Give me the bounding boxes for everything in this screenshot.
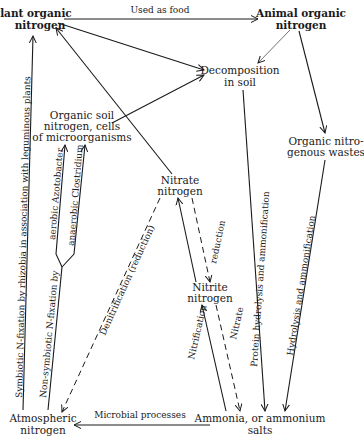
svg-text:Nitrification: Nitrification (186, 304, 208, 361)
edge-nitrate-reduction: reduction (192, 198, 227, 282)
svg-text:nitrogen: nitrogen (187, 292, 233, 304)
svg-text:Hydrolysis and ammonification: Hydrolysis and ammonification (285, 215, 317, 357)
node-plant-organic-nitrogen: Plant organic nitrogen (0, 7, 72, 31)
edge-used-as-food: Used as food (64, 5, 258, 19)
node-organic-nitrogenous-wastes: Organic nitro- genous wastes (287, 135, 364, 158)
svg-text:Protein hydrolysis and ammonif: Protein hydrolysis and ammonification (249, 191, 271, 367)
svg-text:salts: salts (248, 424, 273, 436)
node-nitrate-nitrogen: Nitrate nitrogen (157, 174, 203, 197)
node-ammonia-salts: Ammonia, or ammonium salts (194, 412, 326, 436)
svg-text:Atmospheric: Atmospheric (8, 412, 76, 424)
svg-text:nitrogen: nitrogen (276, 19, 327, 31)
svg-text:Ammonia, or ammonium: Ammonia, or ammonium (194, 412, 326, 424)
svg-text:Used as food: Used as food (131, 5, 190, 15)
edge-animal-to-decomposition (258, 30, 290, 63)
edge-hydrolysis: Hydrolysis and ammonification (285, 160, 325, 411)
svg-text:reduction: reduction (208, 219, 227, 264)
svg-text:nitrogen: nitrogen (15, 19, 66, 31)
node-animal-organic-nitrogen: Animal organic nitrogen (255, 7, 346, 31)
svg-text:Nitrate: Nitrate (228, 306, 245, 340)
svg-text:nitrogen: nitrogen (157, 185, 203, 197)
svg-text:anaerobic Clostridium: anaerobic Clostridium (66, 144, 85, 247)
svg-text:nitrogen: nitrogen (20, 424, 66, 436)
node-organic-soil-nitrogen: Organic soil nitrogen, cells of microorg… (32, 109, 131, 143)
svg-text:aerobic Azotobacter: aerobic Azotobacter (47, 147, 65, 240)
svg-text:in soil: in soil (224, 76, 257, 88)
svg-text:genous wastes: genous wastes (287, 146, 364, 158)
edge-nitrite-reduction: Nitrate (216, 305, 245, 411)
nitrogen-cycle-diagram: Plant organic nitrogen Animal organic ni… (0, 0, 364, 443)
svg-text:Denitrification (reduction): Denitrification (reduction) (98, 224, 157, 337)
node-decomposition-in-soil: Decomposition in soil (200, 64, 279, 88)
svg-text:Animal organic: Animal organic (255, 7, 346, 19)
svg-text:Decomposition: Decomposition (200, 64, 279, 76)
svg-text:Plant organic: Plant organic (0, 7, 72, 19)
svg-text:Non-symbiotic N-fixation by: Non-symbiotic N-fixation by (38, 269, 60, 398)
node-nitrite-nitrogen: Nitrite nitrogen (187, 281, 233, 304)
svg-text:Microbial processes: Microbial processes (94, 410, 186, 420)
node-atmospheric-nitrogen: Atmospheric nitrogen (8, 412, 76, 436)
edge-nitrification: Nitrification (186, 304, 226, 411)
edge-plant-to-decomposition (58, 23, 204, 70)
edge-microbial-processes: Microbial processes (74, 410, 210, 425)
edge-nitrite-to-nitrate (178, 198, 196, 282)
edge-non-symbiotic-fixation: Non-symbiotic N-fixation by aerobic Azot… (38, 144, 85, 410)
edge-symbiotic-fixation: Symbiotic N-fixation by rhizobia in asso… (14, 36, 33, 410)
svg-text:Symbiotic N-fixation by rhizob: Symbiotic N-fixation by rhizobia in asso… (14, 76, 32, 398)
edge-animal-to-wastes (299, 31, 325, 133)
svg-text:of microorganisms: of microorganisms (32, 131, 131, 143)
edge-protein-hydrolysis: Protein hydrolysis and ammonification (243, 90, 271, 411)
